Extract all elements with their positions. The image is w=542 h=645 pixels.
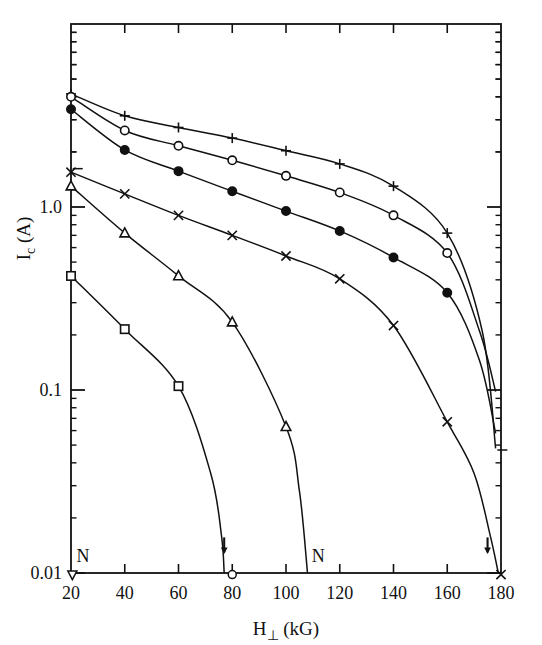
data-marker-triangle-open (174, 271, 184, 280)
data-marker-circle-filled (443, 289, 451, 297)
x-tick-label: 180 (488, 583, 515, 603)
data-marker-triangle-open (281, 422, 291, 431)
figure-canvas: NN 204060801001201401601801.00.10.01 H⊥ … (0, 0, 542, 645)
data-marker-circle-filled (282, 207, 290, 215)
series-cross (66, 168, 498, 573)
plot-svg: NN 204060801001201401601801.00.10.01 H⊥ … (0, 0, 542, 645)
x-tick-label: 80 (223, 583, 241, 603)
x-tick-label: 160 (434, 583, 461, 603)
data-marker-circle-filled (228, 187, 236, 195)
data-marker-square-open (67, 272, 75, 280)
x-tick-label: 100 (273, 583, 300, 603)
series-line-filled-circle (71, 109, 496, 433)
data-marker-triangle-open (66, 181, 76, 190)
x-tick-label: 140 (380, 583, 407, 603)
axis-tick-labels: 204060801001201401601801.00.10.01 (31, 197, 515, 603)
axes-frame (71, 24, 501, 573)
data-marker-circle-filled (67, 105, 75, 113)
data-marker-circle-filled (121, 146, 129, 154)
x-tick-label: 20 (62, 583, 80, 603)
y-tick-label: 0.01 (31, 563, 63, 583)
data-marker-square-open (121, 325, 129, 333)
series-open-circle (67, 93, 496, 392)
series-plus (66, 89, 496, 448)
y-axis-title: Ic (A) (13, 217, 38, 261)
data-marker-circle-open (67, 93, 75, 101)
y-tick-label: 1.0 (40, 197, 63, 217)
data-marker-circle-filled (174, 167, 182, 175)
series-line-cross (71, 172, 498, 573)
x-axis-title: H⊥ (kG) (253, 618, 319, 643)
annotation-normal-state: N (312, 546, 325, 566)
series-open-square (67, 272, 224, 573)
data-marker-circle-filled (389, 253, 397, 261)
data-marker-square-open (174, 382, 182, 390)
data-series (66, 89, 498, 573)
series-line-open-circle (71, 97, 496, 392)
endpoint-circle-marker (228, 571, 236, 579)
series-line-open-triangle (71, 186, 308, 573)
series-open-triangle (66, 181, 307, 573)
axis-ticks (71, 24, 501, 573)
data-marker-circle-open (389, 211, 397, 219)
plot-annotations: NN (68, 169, 508, 580)
data-marker-circle-open (174, 142, 182, 150)
x-tick-label: 120 (326, 583, 353, 603)
plot-frame (71, 24, 501, 573)
series-line-open-square (71, 276, 224, 573)
data-marker-triangle-open (120, 228, 130, 237)
data-marker-circle-open (121, 126, 129, 134)
x-tick-label: 60 (170, 583, 188, 603)
series-line-plus (71, 94, 496, 448)
series-filled-circle (67, 105, 496, 433)
data-marker-circle-filled (336, 227, 344, 235)
endpoint-triangle-marker (68, 571, 77, 580)
data-marker-circle-open (443, 249, 451, 257)
data-marker-circle-open (336, 188, 344, 196)
data-marker-circle-open (228, 156, 236, 164)
down-arrow-icon (484, 537, 491, 554)
data-marker-circle-open (282, 172, 290, 180)
y-tick-label: 0.1 (40, 380, 63, 400)
annotation-normal-state: N (77, 546, 90, 566)
x-tick-label: 40 (116, 583, 134, 603)
